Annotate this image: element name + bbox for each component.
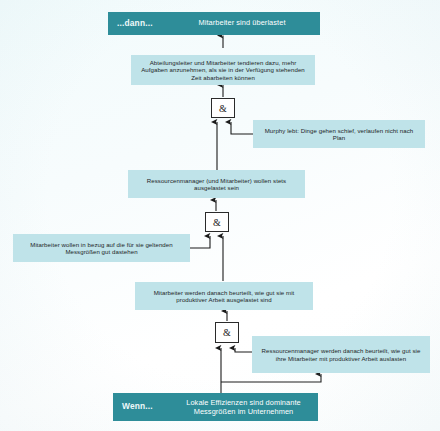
- connector-managereval-to-gate3: [235, 348, 252, 352]
- and-gate-1: &: [211, 98, 235, 118]
- entity-manager-evaluation: Ressourcenmanager werden danach beurteil…: [252, 336, 430, 373]
- banner-if-key: Wenn...: [122, 402, 153, 412]
- connector-banner-to-managereval: [221, 374, 321, 382]
- entity-murphy: Murphy lebt: Dinge gehen schief, verlauf…: [253, 120, 425, 148]
- entity-employee-evaluation-text: Mitarbeiter werden danach beurteilt, wie…: [140, 289, 308, 303]
- banner-if: Wenn... Lokale Effizienzen sind dominant…: [113, 393, 318, 421]
- entity-employee-evaluation: Mitarbeiter werden danach beurteilt, wie…: [135, 282, 313, 310]
- entity-resource-manager-wish: Ressourcenmanager (und Mitarbeiter) woll…: [128, 170, 305, 198]
- connector-murphy-to-gate1: [231, 122, 253, 134]
- entity-murphy-text: Murphy lebt: Dinge gehen schief, verlauf…: [258, 127, 420, 141]
- and-gate-3-label: &: [223, 327, 231, 338]
- connector-metrics-to-gate2: [190, 236, 210, 248]
- banner-then-key: ...dann...: [117, 19, 153, 29]
- diagram-canvas: ...dann... Mitarbeiter sind überlastet A…: [0, 0, 440, 431]
- entity-overload-cause-text: Abteilungsleiter und Mitarbeiter tendier…: [136, 59, 310, 81]
- entity-manager-evaluation-text: Ressourcenmanager werden danach beurteil…: [257, 347, 425, 361]
- and-gate-2-label: &: [213, 217, 221, 228]
- entity-employee-metrics-text: Mitarbeiter wollen in bezug auf die für …: [18, 241, 185, 255]
- and-gate-2: &: [205, 212, 229, 232]
- entity-overload-cause: Abteilungsleiter und Mitarbeiter tendier…: [131, 55, 315, 85]
- entity-resource-manager-wish-text: Ressourcenmanager (und Mitarbeiter) woll…: [133, 177, 300, 191]
- and-gate-1-label: &: [219, 103, 227, 114]
- entity-employee-metrics: Mitarbeiter wollen in bezug auf die für …: [13, 234, 190, 262]
- banner-then: ...dann... Mitarbeiter sind überlastet: [108, 12, 320, 35]
- and-gate-3: &: [215, 322, 239, 343]
